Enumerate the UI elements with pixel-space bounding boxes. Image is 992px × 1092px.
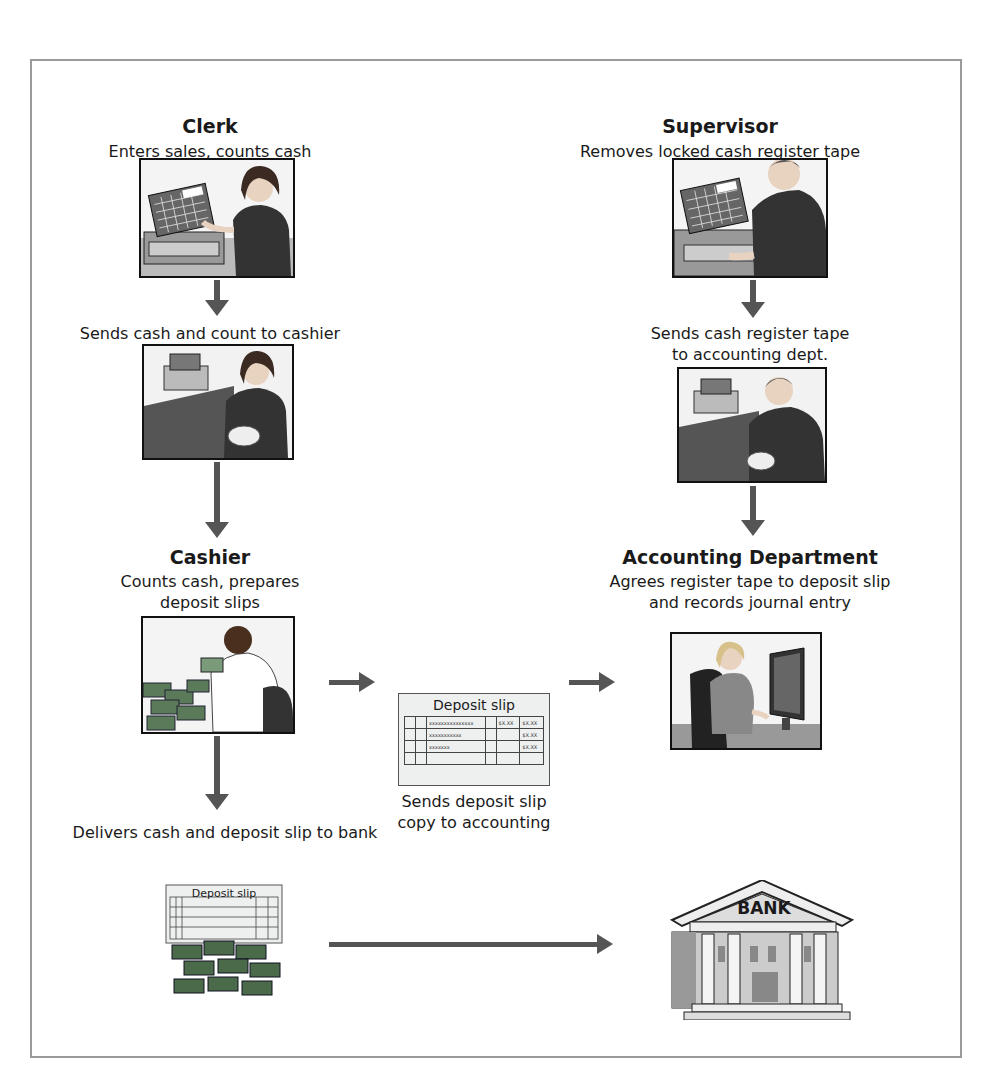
cashier-image — [141, 616, 295, 734]
arrow-clerk-to-send — [214, 280, 220, 302]
arrow-cashier-to-slip — [329, 680, 361, 685]
bank-label: BANK — [732, 898, 796, 918]
cashier-caption-line1: Counts cash, prepares — [60, 571, 360, 592]
arrow-cashier-to-deliver — [214, 736, 220, 796]
deposit-slip-label: Deposit slip — [399, 697, 549, 713]
accounting-title: Accounting Department — [600, 546, 900, 568]
arrow-send-to-cashier — [214, 462, 220, 524]
arrow-slip-to-accounting — [569, 680, 601, 685]
slip-row: xxxxxxx — [427, 741, 486, 753]
slip-row: xxxxxxxxxxx — [427, 729, 486, 741]
cashier-title: Cashier — [110, 546, 310, 568]
deposit-slip-table: xxxxxxxxxxxxxxx$X.XX$X.XX xxxxxxxxxxx$X.… — [404, 716, 544, 765]
deliver-caption: Delivers cash and deposit slip to bank — [40, 822, 410, 843]
clerk-image — [139, 158, 295, 278]
bank-image: BANK — [662, 880, 862, 1020]
slip-amount: $X.XX — [496, 717, 520, 729]
accounting-caption-line2: and records journal entry — [565, 592, 935, 613]
supervisor-image — [672, 158, 828, 278]
clerk-title: Clerk — [110, 115, 310, 137]
accounting-image — [670, 632, 822, 750]
cashier-caption-line2: deposit slips — [60, 592, 360, 613]
deposit-slip-and-cash-image: Deposit slip — [164, 875, 288, 1005]
slip-caption-line1: Sends deposit slip — [374, 791, 574, 812]
clerk-send-image — [142, 344, 294, 460]
supervisor-send-caption-line1: Sends cash register tape — [620, 323, 880, 344]
arrow-supervisor-to-send — [750, 280, 756, 304]
slip-row: xxxxxxxxxxxxxxx — [427, 717, 486, 729]
supervisor-send-caption-line2: to accounting dept. — [620, 344, 880, 365]
deliver-slip-label: Deposit slip — [166, 887, 282, 900]
slip-amount: $X.XX — [520, 729, 544, 741]
accounting-caption-line1: Agrees register tape to deposit slip — [565, 571, 935, 592]
deposit-slip: Deposit slip xxxxxxxxxxxxxxx$X.XX$X.XX x… — [398, 693, 550, 786]
clerk-send-caption: Sends cash and count to cashier — [40, 323, 380, 344]
supervisor-send-image — [677, 367, 827, 483]
slip-amount: $X.XX — [520, 717, 544, 729]
supervisor-title: Supervisor — [620, 115, 820, 137]
arrow-deliver-to-bank — [329, 942, 599, 947]
arrow-send-to-accounting — [750, 486, 756, 522]
slip-amount: $X.XX — [520, 741, 544, 753]
